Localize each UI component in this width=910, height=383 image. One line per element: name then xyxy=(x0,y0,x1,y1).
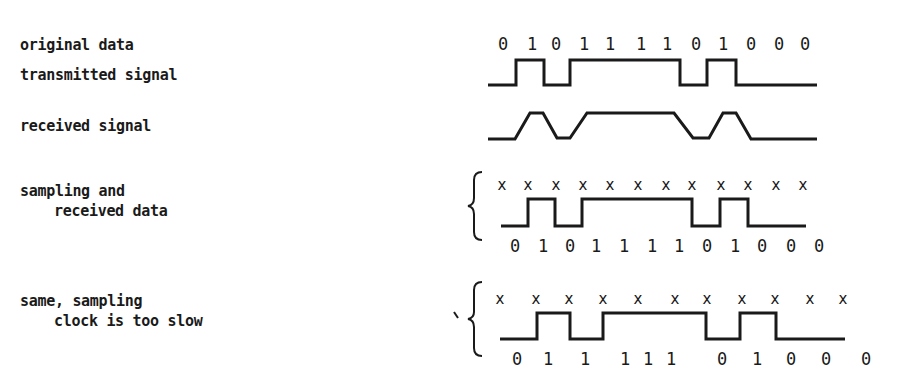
bit-label: 1 xyxy=(752,349,762,369)
sampled-signal-waveform xyxy=(501,199,806,226)
sample-mark: x xyxy=(671,290,680,308)
bit-label: 1 xyxy=(579,34,589,54)
original-data-bits: 0 1 0 1 1 1 1 0 1 0 0 0 xyxy=(498,34,810,54)
bit-label: 0 xyxy=(861,349,871,369)
sample-mark: x xyxy=(599,290,608,308)
sample-mark: x xyxy=(524,176,533,194)
brace-slow-sampling xyxy=(468,282,482,356)
sample-mark: x xyxy=(717,176,726,194)
sample-marks-row4: x x x x x x x x x x x x xyxy=(498,176,808,194)
sample-mark: x xyxy=(738,290,747,308)
sample-mark: x xyxy=(772,176,781,194)
bit-label: 0 xyxy=(821,349,831,369)
bit-label: 1 xyxy=(674,236,684,256)
bit-label: 1 xyxy=(647,236,657,256)
sample-mark: x xyxy=(579,176,588,194)
sample-mark: x xyxy=(688,176,697,194)
bit-label: 1 xyxy=(605,34,615,54)
bit-label: 0 xyxy=(510,236,520,256)
bit-label: 0 xyxy=(717,349,727,369)
slow-sampled-signal-waveform xyxy=(500,313,845,339)
sample-mark: x xyxy=(771,290,780,308)
sample-mark: x xyxy=(634,176,643,194)
bit-label: 1 xyxy=(643,349,653,369)
bit-label: 1 xyxy=(730,236,740,256)
sample-marks-row5: x x x x x x x x x x x xyxy=(496,290,848,308)
bit-label: 0 xyxy=(565,236,575,256)
sample-mark: x xyxy=(565,290,574,308)
received-signal-waveform xyxy=(488,113,817,139)
slow-received-data-bits: 0 1 1 1 1 1 0 1 0 0 0 xyxy=(512,349,871,369)
sample-mark: x xyxy=(496,290,505,308)
bit-label: 1 xyxy=(666,349,676,369)
bit-label: 0 xyxy=(800,34,810,54)
sample-mark: x xyxy=(634,290,643,308)
bit-label: 0 xyxy=(814,236,824,256)
bit-label: 1 xyxy=(662,34,672,54)
bit-label: 0 xyxy=(774,34,784,54)
sample-mark: x xyxy=(744,176,753,194)
bit-label: 0 xyxy=(691,34,701,54)
bit-label: 1 xyxy=(591,236,601,256)
sample-mark: x xyxy=(552,176,561,194)
sample-mark: x xyxy=(799,176,808,194)
transmitted-signal-waveform xyxy=(488,60,817,85)
bit-label: 0 xyxy=(498,34,508,54)
bit-label: 0 xyxy=(702,236,712,256)
bit-label: 1 xyxy=(538,236,548,256)
sample-mark: x xyxy=(498,176,507,194)
bit-label: 0 xyxy=(757,236,767,256)
bit-label: 0 xyxy=(746,34,756,54)
bit-label: 1 xyxy=(718,34,728,54)
sample-mark: x xyxy=(703,290,712,308)
bit-label: 1 xyxy=(620,349,630,369)
bit-label: 0 xyxy=(786,236,796,256)
sample-mark: x xyxy=(606,176,615,194)
sample-mark: x xyxy=(532,290,541,308)
sample-mark: x xyxy=(839,290,848,308)
bit-label: 0 xyxy=(786,349,796,369)
bit-label: 0 xyxy=(551,34,561,54)
bit-label: 1 xyxy=(527,34,537,54)
bit-label: 1 xyxy=(543,349,553,369)
sample-mark: x xyxy=(662,176,671,194)
received-data-bits: 0 1 0 1 1 1 1 0 1 0 0 0 xyxy=(510,236,824,256)
brace-sampling xyxy=(468,172,482,240)
bit-label: 0 xyxy=(512,349,522,369)
stray-tick-mark xyxy=(454,312,458,318)
bit-label: 1 xyxy=(636,34,646,54)
timing-diagram: 0 1 0 1 1 1 1 0 1 0 0 0 x x x x x x x x … xyxy=(0,0,910,383)
sample-mark: x xyxy=(806,290,815,308)
bit-label: 1 xyxy=(580,349,590,369)
bit-label: 1 xyxy=(619,236,629,256)
